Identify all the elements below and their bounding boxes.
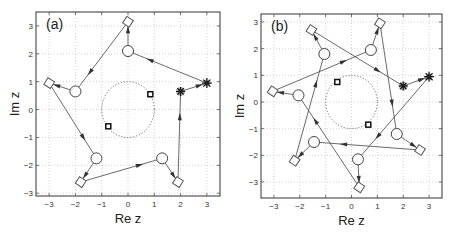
plot-area-a: −3−2−10123−3−2−10123(a)Re zIm z: [0, 0, 228, 233]
square-marker-icon: [148, 92, 153, 97]
star-marker-icon: [202, 78, 212, 88]
star-core: [401, 84, 405, 88]
y-tick-label: −2: [249, 151, 259, 160]
star-marker-icon: [399, 82, 408, 91]
star-core: [427, 75, 431, 79]
circle-marker-icon: [91, 153, 102, 164]
circle-marker-icon: [123, 46, 134, 57]
y-tick-label: 2: [29, 50, 34, 59]
x-tick-label: −2: [295, 202, 305, 211]
y-tick-label: −1: [24, 133, 34, 142]
y-tick-label: −2: [24, 161, 34, 170]
x-tick-label: −1: [321, 202, 331, 211]
y-tick-label: 1: [254, 71, 259, 80]
plot-area-b: −3−2−10123−3−2−10123(b)Re zIm z: [226, 0, 453, 233]
chart-panel-a: −3−2−10123−3−2−10123(a)Re zIm z: [0, 0, 228, 233]
x-tick-label: 1: [375, 202, 380, 211]
y-tick-label: −1: [249, 125, 259, 134]
x-axis-label: Re z: [338, 213, 365, 228]
x-tick-label: −2: [71, 200, 81, 209]
circle-marker-icon: [157, 153, 168, 164]
x-tick-label: −3: [45, 200, 55, 209]
circle-marker-icon: [70, 86, 81, 97]
y-tick-label: −3: [24, 189, 34, 198]
circle-marker-icon: [365, 45, 376, 56]
star-core: [205, 81, 209, 85]
x-tick-label: 1: [152, 200, 157, 209]
x-tick-label: 0: [349, 202, 354, 211]
y-tick-label: 3: [29, 22, 34, 31]
circle-marker-icon: [391, 129, 402, 140]
circle-marker-icon: [319, 49, 330, 60]
x-tick-label: −3: [269, 202, 279, 211]
y-tick-label: 3: [254, 18, 259, 27]
circle-marker-icon: [309, 137, 320, 148]
x-axis-label: Re z: [115, 211, 142, 226]
x-tick-label: 2: [401, 202, 406, 211]
y-tick-label: 0: [254, 98, 259, 107]
y-tick-label: 0: [29, 106, 34, 115]
x-tick-label: 0: [126, 200, 131, 209]
y-tick-label: −3: [249, 178, 259, 187]
x-tick-label: 3: [427, 202, 432, 211]
y-tick-label: 1: [29, 78, 34, 87]
star-marker-icon: [424, 72, 434, 82]
star-marker-icon: [176, 87, 185, 96]
x-tick-label: −1: [97, 200, 107, 209]
circle-marker-icon: [293, 90, 304, 101]
y-axis-label: Im z: [7, 92, 22, 117]
square-marker-icon: [335, 80, 340, 85]
square-marker-icon: [366, 122, 371, 127]
y-tick-label: 2: [254, 45, 259, 54]
circle-marker-icon: [352, 154, 363, 165]
panel-tag: (b): [271, 18, 288, 34]
star-core: [179, 90, 183, 94]
y-axis-label: Im z: [232, 94, 247, 119]
square-marker-icon: [106, 124, 111, 129]
panel-tag: (a): [46, 16, 63, 32]
x-tick-label: 3: [205, 200, 210, 209]
x-tick-label: 2: [178, 200, 183, 209]
chart-panel-b: −3−2−10123−3−2−10123(b)Re zIm z: [226, 0, 453, 233]
